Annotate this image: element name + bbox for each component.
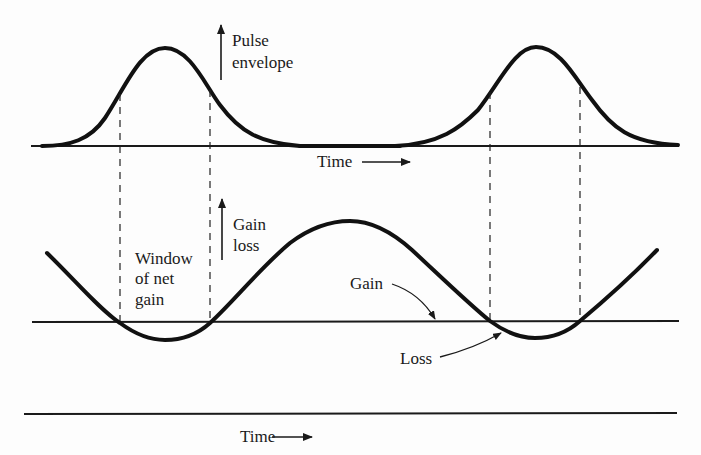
bottom-time-axis [24,413,677,414]
loss-axis-label: loss [233,236,259,255]
loss-annotation-label: Loss [400,349,432,368]
envelope-label: envelope [232,53,293,72]
gain-leader-arrow-icon [392,284,435,319]
loss-leader-arrow-icon [440,333,501,357]
mode-locking-diagram: Pulse envelope Time Gain loss Window of … [0,0,701,455]
window-label-line1: Window [135,249,194,268]
top-time-label: Time [317,152,352,171]
diagram-svg: Pulse envelope Time Gain loss Window of … [0,0,701,455]
window-label-line2: of net [135,269,174,288]
gain-loss-panel: Gain loss Window of net gain Gain Loss [32,199,679,368]
window-label-line3: gain [135,290,165,309]
pulse-envelope-panel: Pulse envelope Time [31,25,679,171]
gain-annotation-label: Gain [350,274,384,293]
pulse-2-curve [395,47,678,146]
pulse-label: Pulse [232,31,269,50]
gain-axis-label: Gain [233,215,267,234]
bottom-time-axis-group: Time [24,413,677,446]
bottom-time-label: Time [240,427,275,446]
